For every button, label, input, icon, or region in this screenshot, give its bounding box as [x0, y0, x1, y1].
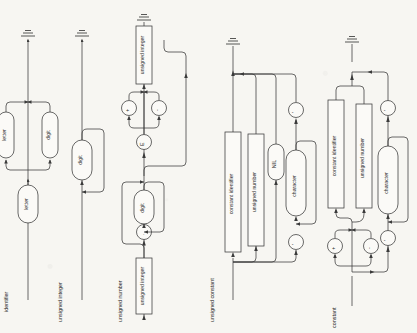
constant-unum-label: unsigned number [359, 138, 365, 178]
unsigned-number-uint-label-2: unsigned integer [139, 36, 145, 75]
constant-sign-choice: + - [328, 228, 379, 272]
rule-constant: + - constant identifier unsigned number [328, 37, 409, 329]
rule-label-identifier: identifier [3, 291, 9, 312]
unsigned-constant-quote-close-circle [289, 103, 304, 118]
unsigned-number-sign-choice: + - [122, 90, 167, 134]
rule-unsigned-constant: constant identifier unsigned number NIL … [209, 39, 316, 323]
unsigned-number-plus-label: + [124, 109, 130, 112]
constant-plus-label: + [330, 247, 336, 250]
unsigned-number-minus-label: - [154, 109, 160, 111]
rule-unsigned-integer: digit unsigned integer [57, 31, 104, 323]
unsigned-number-end-terminator [137, 15, 151, 21]
unsigned-number-uint-label-1: unsigned integer [139, 267, 145, 306]
rule-label-unsigned-number: unsigned number [117, 280, 123, 322]
constant-quote-open-circle [381, 231, 396, 246]
unsigned-number-e-label: E [139, 142, 145, 146]
unsigned-constant-character-label: character [291, 175, 297, 197]
constant-value-choice: constant identifier unsigned number [328, 72, 372, 230]
identifier-letter-first: letter [18, 185, 38, 223]
constant-numeric-branch: + - constant identifier unsigned number [328, 72, 379, 272]
constant-minus-circle [364, 239, 379, 254]
identifier-letter-label: letter [23, 198, 29, 210]
constant-end-terminator [345, 37, 359, 43]
unsigned-number-dot-label: . [139, 233, 145, 235]
identifier-letter-loop-label: letter [1, 129, 7, 141]
unsigned-constant-string-branch: ' character ' [286, 103, 316, 256]
unsigned-number-digit-label: digit [139, 203, 145, 213]
constant-cid-label: constant identifier [331, 135, 337, 176]
unsigned-constant-cid-label: constant identifier [228, 173, 234, 214]
unsigned-number-exponent-group: E + - unsigned in [122, 26, 188, 176]
constant-character-label: character [383, 172, 389, 194]
identifier-repeat-group: letter digit [0, 100, 58, 170]
identifier-end-terminator [21, 31, 35, 37]
unsigned-number-e-circle [137, 135, 152, 150]
unsigned-number-uint-first: unsigned integer [136, 258, 152, 320]
constant-quote-close-label: ' [383, 110, 389, 111]
unsigned-constant-quote-open-circle [289, 235, 304, 250]
identifier-digit-loop-label: digit [45, 130, 51, 140]
rule-label-unsigned-integer: unsigned integer [57, 282, 63, 322]
unsigned-number-plus-circle [122, 101, 137, 116]
unsigned-integer-digit-label: digit [77, 155, 83, 165]
syntax-diagram-svg: letter letter digit identifier [0, 0, 417, 333]
unsigned-constant-nil-label: NIL [271, 160, 277, 168]
constant-minus-label: - [366, 247, 372, 249]
unsigned-number-fraction-group: . digit [122, 180, 164, 258]
unsigned-constant-end-terminator [226, 39, 240, 45]
unsigned-integer-digit-group: digit [72, 129, 104, 194]
unsigned-constant-unum-label: unsigned number [251, 172, 257, 212]
constant-plus-circle [328, 239, 343, 254]
unsigned-constant-quote-open-label: ' [291, 244, 297, 245]
unsigned-number-minus-circle [152, 101, 167, 116]
rule-label-constant: constant [331, 307, 337, 328]
rule-unsigned-number: unsigned integer . digit E [117, 15, 188, 323]
unsigned-constant-alternatives: constant identifier unsigned number NIL … [225, 70, 316, 265]
rule-identifier: letter letter digit identifier [0, 31, 58, 313]
constant-quote-close-circle [381, 101, 396, 116]
diagram-sheet: letter letter digit identifier [0, 0, 417, 333]
rule-label-unsigned-constant: unsigned constant [209, 278, 215, 322]
constant-string-branch: ' character ' [378, 101, 408, 253]
unsigned-constant-quote-close-label: ' [291, 112, 297, 113]
unsigned-integer-end-terminator [75, 31, 89, 37]
constant-quote-open-label: ' [383, 240, 389, 241]
